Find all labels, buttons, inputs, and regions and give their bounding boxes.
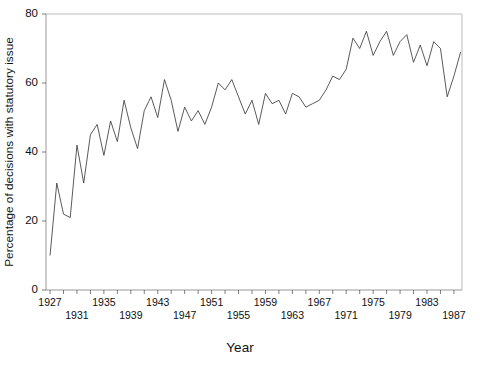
x-axis-tick-label: 1939	[119, 309, 143, 321]
x-axis-tick-label: 1935	[92, 296, 116, 308]
x-axis-tick-label: 1983	[415, 296, 439, 308]
line-chart: 020406080 192719351943195119591967197519…	[0, 0, 480, 373]
x-axis-tick-label: 1931	[65, 309, 89, 321]
x-axis-tick-label: 1943	[146, 296, 170, 308]
y-axis-tick-label: 60	[25, 76, 38, 88]
y-axis-tick-label: 0	[32, 283, 38, 295]
y-axis-title: Percentage of decisions with statutory i…	[2, 37, 16, 267]
x-axis-title: Year	[226, 340, 254, 355]
x-axis-tick-label: 1927	[38, 296, 62, 308]
y-axis-tick-label: 80	[25, 7, 38, 19]
x-axis-tick-label: 1951	[200, 296, 224, 308]
x-axis-tick-label: 1967	[308, 296, 332, 308]
x-axis-tick-label: 1987	[442, 309, 466, 321]
y-axis-tick-label: 40	[25, 145, 38, 157]
y-axis-tick-label: 20	[25, 214, 38, 226]
x-axis-tick-label: 1959	[254, 296, 278, 308]
x-axis-tick-label: 1971	[335, 309, 359, 321]
chart-figure: 020406080 192719351943195119591967197519…	[0, 0, 480, 373]
x-axis-tick-label: 1955	[227, 309, 251, 321]
x-axis-tick-label: 1979	[388, 309, 412, 321]
x-axis-tick-label: 1947	[173, 309, 197, 321]
x-axis-tick-label: 1975	[361, 296, 385, 308]
x-axis-tick-label: 1963	[281, 309, 305, 321]
